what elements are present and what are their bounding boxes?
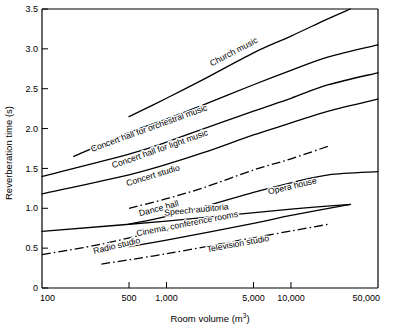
y-tick-label: 3.5 (25, 4, 38, 14)
y-tick-label: 0 (33, 283, 38, 293)
x-tick-label: 10,000 (277, 293, 305, 303)
y-tick-label: 1.5 (25, 164, 38, 174)
x-tick-label: 100 (40, 293, 55, 303)
chart-canvas: 00.51.01.52.02.53.03.5 1005001,0005,0001… (0, 0, 403, 329)
x-axis-title: Room volume (m3) (170, 312, 249, 324)
y-axis-title: Reverberation time (s) (3, 106, 14, 200)
x-tick-label: 50,000 (352, 293, 380, 303)
x-tick-label: 500 (122, 293, 137, 303)
reverberation-time-chart: 00.51.01.52.02.53.03.5 1005001,0005,0001… (0, 0, 403, 329)
y-tick-label: 0.5 (25, 243, 38, 253)
chart-background (0, 0, 403, 329)
y-tick-label: 3.0 (25, 44, 38, 54)
y-tick-label: 1.0 (25, 203, 38, 213)
y-tick-label: 2.0 (25, 124, 38, 134)
y-tick-label: 2.5 (25, 84, 38, 94)
x-tick-label: 5,000 (242, 293, 265, 303)
x-tick-label: 1,000 (155, 293, 178, 303)
x-axis-title-main: Room volume (m (170, 313, 242, 324)
x-axis-title-tail: ) (246, 313, 249, 324)
